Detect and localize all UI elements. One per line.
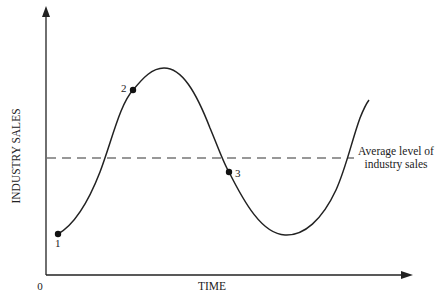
- point-2-marker: [130, 87, 136, 93]
- industry-sales-curve: [58, 68, 369, 235]
- x-axis-label: TIME: [198, 280, 226, 292]
- y-axis: [42, 6, 50, 275]
- x-axis: [46, 271, 413, 279]
- y-axis-arrow-icon: [42, 6, 50, 17]
- average-level-label-line2: industry sales: [365, 158, 428, 171]
- x-axis-arrow-icon: [401, 271, 413, 279]
- y-axis-label: INDUSTRY SALES: [10, 108, 22, 203]
- origin-label: 0: [37, 280, 43, 292]
- average-level-label-line1: Average level of: [358, 145, 434, 158]
- point-1-label: 1: [55, 237, 61, 249]
- point-3-marker: [226, 169, 232, 175]
- point-2-label: 2: [121, 82, 127, 94]
- point-3-label: 3: [235, 167, 241, 179]
- business-cycle-diagram: 1 2 3 INDUSTRY SALES TIME 0 Average leve…: [0, 0, 445, 301]
